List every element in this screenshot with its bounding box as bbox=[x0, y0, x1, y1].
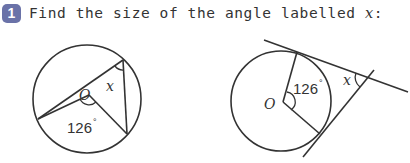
figure-a-radius-right bbox=[89, 95, 127, 134]
figure-b-tangent-top bbox=[264, 40, 408, 92]
figure-a-degree-symbol: ° bbox=[93, 117, 97, 127]
figure-a-angle-label: 126 bbox=[67, 119, 92, 136]
figure-b-radius-bottom bbox=[283, 102, 320, 134]
figure-b-degree-symbol: ° bbox=[319, 78, 323, 88]
figure-b-x-label: x bbox=[343, 72, 351, 88]
figure-a-chord-right bbox=[123, 60, 127, 134]
figure-b-angle-label: 126 bbox=[293, 80, 318, 97]
figure-b bbox=[231, 40, 408, 157]
figure-b-centre-label: O bbox=[264, 96, 276, 112]
figure-a-x-label: x bbox=[106, 78, 114, 94]
figure-b-circle bbox=[231, 51, 331, 151]
figures-canvas: O x 126 ° O 126 ° x bbox=[0, 0, 410, 163]
figure-a-centre-label: O bbox=[79, 87, 91, 103]
